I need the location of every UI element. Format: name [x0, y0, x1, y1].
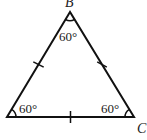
angle-label-bottom-left: 60°	[19, 101, 37, 116]
triangle-diagram: B C 60° 60° 60°	[0, 0, 147, 140]
angle-arc-bottom-right	[125, 109, 129, 117]
angle-label-bottom-right: 60°	[101, 101, 119, 116]
angle-arc-bottom-left	[12, 109, 16, 117]
triangle-svg: B C 60° 60° 60°	[0, 0, 147, 140]
angle-arc-top	[66, 20, 75, 21]
vertex-label-c: C	[137, 121, 147, 136]
angle-label-top: 60°	[59, 29, 77, 44]
vertex-label-b: B	[65, 0, 74, 10]
